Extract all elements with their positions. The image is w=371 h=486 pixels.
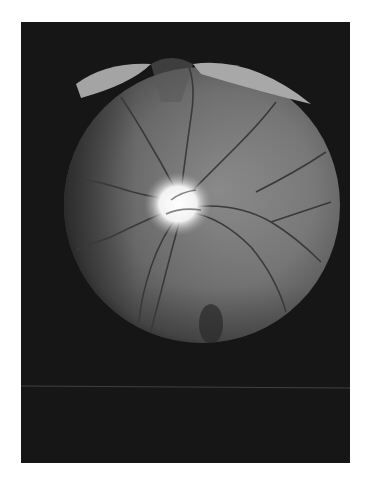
macula-shadow [199, 304, 223, 344]
optic-disc [144, 172, 212, 236]
fundus-photo-frame [21, 22, 350, 463]
fundus-image [21, 22, 350, 463]
scan-line-artifact [21, 386, 350, 388]
